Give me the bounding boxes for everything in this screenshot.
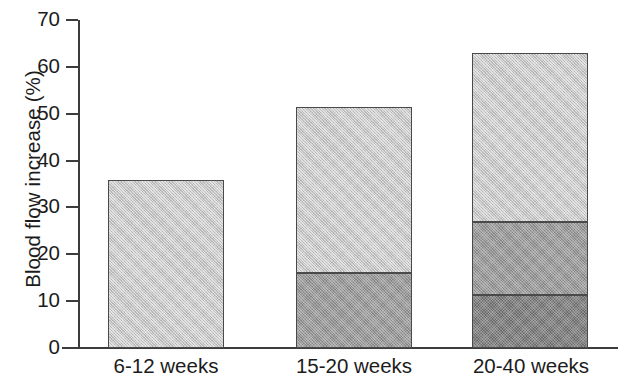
x-axis-tick-label: 20-40 weeks [431,355,623,378]
bar-3-segment-dark [472,295,588,348]
bar-3-segment-light [472,53,588,222]
bar-3-segment-medium [472,222,588,295]
x-axis-tick-label: 6-12 weeks [66,355,266,378]
bar-chart: Blood flow increase (%) 706050403020100 … [0,0,623,382]
bar-3 [472,53,588,348]
bar-2 [296,107,412,348]
plot-area [0,0,623,382]
bar-2-segment-light [296,107,412,273]
x-axis-tick-label: 15-20 weeks [254,355,454,378]
bar-1-segment-light [108,180,224,348]
bar-1 [108,180,224,348]
bar-2-segment-medium [296,273,412,348]
